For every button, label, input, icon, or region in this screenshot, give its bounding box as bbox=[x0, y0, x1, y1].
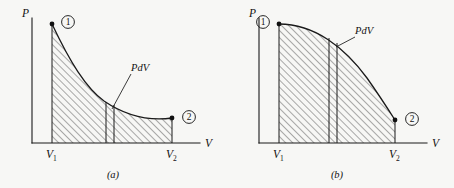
state-label-2-a: 2 bbox=[187, 112, 192, 122]
panel-a-svg: PdV 1 2 P V V 1 bbox=[0, 0, 227, 188]
x-tick-v1-a: V 1 bbox=[46, 148, 57, 163]
pdv-annotation-b: PdV bbox=[336, 25, 375, 47]
x-tick-v2-b: V 2 bbox=[389, 148, 400, 163]
x-tick-v2-a: V 2 bbox=[166, 148, 177, 163]
y-axis-label-a: P bbox=[21, 7, 29, 19]
x-tick-v2-subscript-a: 2 bbox=[173, 154, 177, 163]
panel-b: PdV 1 2 P V V 1 bbox=[227, 0, 454, 188]
shaded-work-area-a bbox=[30, 16, 210, 151]
panel-a: PdV 1 2 P V V 1 bbox=[0, 0, 227, 188]
x-tick-v1-b: V 1 bbox=[273, 148, 284, 163]
x-axis-label-b: V bbox=[432, 137, 441, 149]
y-axis-label-b: P bbox=[248, 7, 256, 19]
state-label-2-b: 2 bbox=[410, 114, 415, 124]
caption-b: (b) bbox=[331, 169, 344, 181]
state-point-2-b: 2 bbox=[393, 113, 419, 126]
state-point-1-b: 1 bbox=[257, 16, 282, 29]
state-point-2-a: 2 bbox=[170, 111, 196, 124]
x-tick-v1-subscript-a: 1 bbox=[53, 154, 57, 163]
figure-root: PdV 1 2 P V V 1 bbox=[0, 0, 454, 188]
panel-b-svg: PdV 1 2 P V V 1 bbox=[227, 0, 454, 188]
shaded-work-area-b bbox=[257, 16, 437, 151]
state-label-1-b: 1 bbox=[261, 17, 266, 27]
pdv-label-b: PdV bbox=[354, 25, 375, 36]
x-tick-v2-subscript-b: 2 bbox=[396, 154, 400, 163]
pdv-annotation-a: PdV bbox=[112, 62, 151, 109]
state-label-1-a: 1 bbox=[66, 17, 71, 27]
x-tick-v1-subscript-b: 1 bbox=[280, 154, 284, 163]
x-axis-label-a: V bbox=[205, 137, 214, 149]
caption-a: (a) bbox=[107, 169, 120, 181]
pdv-label-a: PdV bbox=[130, 62, 151, 73]
